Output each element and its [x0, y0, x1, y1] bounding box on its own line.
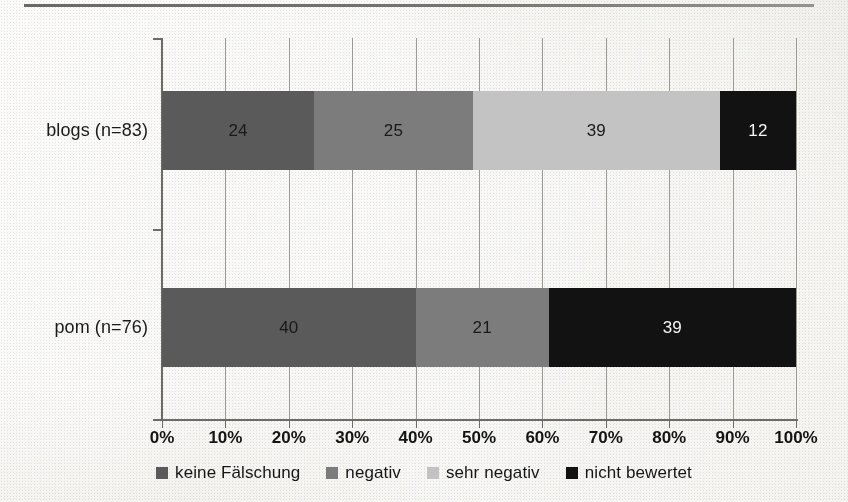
bar-value-label: 24 [228, 121, 247, 141]
legend-item-2[interactable]: sehr negativ [427, 463, 540, 483]
legend-swatch-icon [156, 467, 168, 479]
bar-value-label: 40 [279, 318, 298, 338]
chart-page: 0%10%20%30%40%50%60%70%80%90%100% keine … [0, 0, 848, 502]
bar-segment-pom-0[interactable]: 40 [162, 288, 416, 367]
legend-item-1[interactable]: negativ [326, 463, 401, 483]
legend-label: sehr negativ [446, 463, 540, 483]
legend-label: nicht bewertet [585, 463, 692, 483]
x-tick-70pct [606, 419, 607, 428]
bar-segment-pom-2[interactable]: 39 [549, 288, 796, 367]
x-axis-label-90pct: 90% [703, 428, 763, 448]
bar-segment-blogs-1[interactable]: 25 [314, 91, 473, 170]
top-horizontal-rule [24, 4, 814, 7]
x-tick-30pct [352, 419, 353, 428]
bar-segment-blogs-2[interactable]: 39 [473, 91, 720, 170]
bar-blogs[interactable]: 24253912 [162, 91, 796, 170]
x-tick-80pct [669, 419, 670, 428]
x-tick-60pct [542, 419, 543, 428]
legend-swatch-icon [427, 467, 439, 479]
bar-value-label: 39 [663, 318, 682, 338]
x-axis-label-10pct: 10% [195, 428, 255, 448]
chart-legend: keine Fälschungnegativsehr negativnicht … [0, 463, 848, 483]
x-tick-10pct [225, 419, 226, 428]
bar-value-label: 12 [748, 121, 767, 141]
category-label-pom: pom (n=76) [0, 317, 148, 338]
x-tick-100pct [796, 419, 797, 428]
x-axis-label-20pct: 20% [259, 428, 319, 448]
legend-item-3[interactable]: nicht bewertet [566, 463, 692, 483]
category-label-blogs: blogs (n=83) [0, 120, 148, 141]
legend-swatch-icon [566, 467, 578, 479]
bar-segment-blogs-0[interactable]: 24 [162, 91, 314, 170]
x-tick-50pct [479, 419, 480, 428]
bar-pom[interactable]: 402139 [162, 288, 796, 367]
x-tick-90pct [733, 419, 734, 428]
legend-item-0[interactable]: keine Fälschung [156, 463, 300, 483]
x-axis-label-60pct: 60% [512, 428, 572, 448]
x-axis-label-100pct: 100% [766, 428, 826, 448]
y-tick-0 [153, 38, 163, 40]
x-axis-label-70pct: 70% [576, 428, 636, 448]
x-axis-label-40pct: 40% [386, 428, 446, 448]
bar-value-label: 25 [384, 121, 403, 141]
x-axis-line [162, 419, 798, 421]
bar-value-label: 39 [587, 121, 606, 141]
x-axis-label-30pct: 30% [322, 428, 382, 448]
x-axis-label-80pct: 80% [639, 428, 699, 448]
bar-segment-blogs-3[interactable]: 12 [720, 91, 796, 170]
legend-label: negativ [345, 463, 401, 483]
legend-label: keine Fälschung [175, 463, 300, 483]
y-tick-1 [153, 229, 163, 231]
gridline-100pct [796, 38, 797, 419]
x-tick-20pct [289, 419, 290, 428]
x-axis-label-50pct: 50% [449, 428, 509, 448]
y-tick-2 [153, 419, 163, 421]
x-tick-40pct [416, 419, 417, 428]
x-axis-label-0pct: 0% [132, 428, 192, 448]
bar-segment-pom-1[interactable]: 21 [416, 288, 549, 367]
bar-value-label: 21 [473, 318, 492, 338]
legend-swatch-icon [326, 467, 338, 479]
